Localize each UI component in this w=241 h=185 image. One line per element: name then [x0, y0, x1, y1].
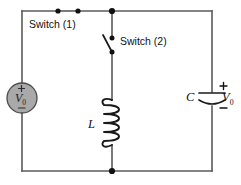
capacitor-label: C: [186, 91, 194, 104]
capacitor-voltage-symbol: V: [222, 90, 230, 104]
capacitor-voltage-subscript: 0: [230, 98, 234, 107]
switch-2[interactable]: [103, 35, 115, 55]
wire-network: [22, 11, 212, 171]
inductor: [102, 99, 119, 147]
switch-2-label: Switch (2): [120, 36, 167, 47]
source-voltage-label: V0: [15, 92, 26, 107]
switch2-bottom-contact-dot: [110, 50, 115, 55]
switch2-top-contact-dot: [110, 36, 115, 41]
source-voltage-subscript: 0: [22, 98, 26, 107]
switch-1-label: Switch (1): [29, 19, 76, 30]
inductor-coil: [102, 99, 119, 147]
switch1-right-contact-dot: [75, 8, 80, 13]
circuit-diagram-canvas: Switch (1) Switch (2) L C V0 V0: [0, 0, 241, 185]
inductor-label: L: [88, 118, 95, 131]
capacitor-voltage-label: V0: [222, 91, 234, 106]
capacitor-plus-icon: [220, 83, 227, 90]
node-top-junction-dot: [109, 8, 115, 14]
node-bottom-junction-dot: [109, 168, 115, 174]
switch1-left-contact-dot: [55, 8, 60, 13]
